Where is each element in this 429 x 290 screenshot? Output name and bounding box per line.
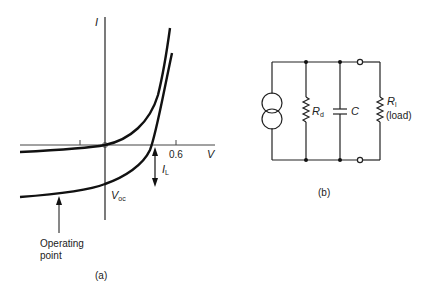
operating-point-arrow xyxy=(56,196,62,233)
voc-label: Voc xyxy=(111,189,126,202)
operating-point-label-line2: point xyxy=(40,250,62,261)
rd-label: Rd xyxy=(312,105,324,118)
rl-resistor-icon xyxy=(377,97,383,122)
caption-a: (a) xyxy=(95,270,107,281)
rl-label: Rl xyxy=(387,95,397,108)
illuminated-iv-curve xyxy=(20,53,172,197)
solar-cell-diagram: I V 0.6 Voc IL Operating point (a) xyxy=(0,0,429,290)
dark-iv-curve xyxy=(20,28,170,152)
rd-resistor-icon xyxy=(303,97,309,122)
terminal-bottom xyxy=(357,157,362,162)
c-label: C xyxy=(351,105,359,117)
caption-b: (b) xyxy=(318,187,330,198)
iv-graph: I V 0.6 Voc IL Operating point (a) xyxy=(20,16,216,281)
operating-point-label-line1: Operating xyxy=(40,238,84,249)
load-note: (load) xyxy=(386,110,412,121)
junction-dot xyxy=(338,60,342,64)
i-axis-label: I xyxy=(95,16,98,28)
junction-dot xyxy=(304,158,308,162)
il-label: IL xyxy=(162,163,169,176)
current-source-icon xyxy=(262,93,282,129)
v-axis-label: V xyxy=(207,148,216,160)
terminal-top xyxy=(357,59,362,64)
junction-dot xyxy=(338,158,342,162)
junction-dot xyxy=(304,60,308,64)
tick-label-0.6: 0.6 xyxy=(169,149,183,160)
il-arrow xyxy=(152,147,158,187)
